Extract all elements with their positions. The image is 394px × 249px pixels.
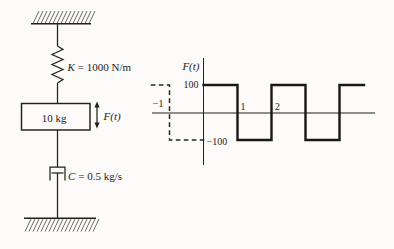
spring-icon: [52, 46, 63, 83]
force-double-arrow-icon: [94, 102, 99, 129]
ceiling-support: [31, 11, 95, 24]
ground-hatch-icon: [25, 219, 99, 232]
ytick-100: 100: [184, 79, 199, 90]
mass-label: 10 kg: [42, 112, 67, 124]
damping-constant-label: C= 0.5 kg/s: [68, 170, 122, 182]
xtick-2: 2: [275, 101, 280, 112]
mass-spring-damper-diagram: K= 1000 N/m 10 kg F(t) C= 0.5 kg/s: [22, 11, 132, 232]
spring-constant-label: K= 1000 N/m: [67, 61, 132, 73]
force-time-graph: F(t) 100 −100 −1 1 2: [151, 58, 375, 165]
textbook-figure: K= 1000 N/m 10 kg F(t) C= 0.5 kg/s: [0, 0, 394, 249]
ceiling-hatch-icon: [33, 11, 95, 24]
xtick-neg1: −1: [153, 98, 164, 109]
figure-canvas: K= 1000 N/m 10 kg F(t) C= 0.5 kg/s: [0, 0, 394, 249]
dashpot-icon: [50, 167, 65, 218]
ytick-neg100: −100: [207, 136, 228, 147]
graph-ylabel: F(t): [181, 60, 199, 73]
ground-support: [24, 218, 99, 231]
xtick-1: 1: [241, 101, 246, 112]
force-label: F(t): [103, 110, 121, 123]
